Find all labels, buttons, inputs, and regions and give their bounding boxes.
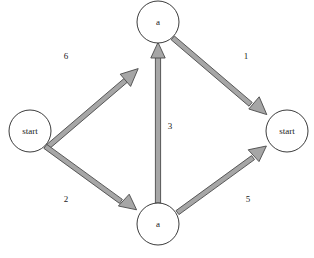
diagram-canvas: start a a start 6 1 2 5 3 xyxy=(0,0,314,258)
node-left-label: start xyxy=(22,126,38,136)
node-bottom[interactable]: a xyxy=(137,203,179,245)
edge-bottom-to-right[interactable] xyxy=(176,146,266,215)
edge-left-to-top[interactable] xyxy=(47,69,139,149)
edge-label-left-to-top: 6 xyxy=(64,51,69,61)
edge-top-to-right[interactable] xyxy=(171,36,267,115)
edge-label-bottom-to-right: 5 xyxy=(246,194,251,204)
edge-shaft-top-to-right xyxy=(171,36,252,106)
directed-graph: start a a start 6 1 2 5 3 xyxy=(0,0,314,258)
node-right-label: start xyxy=(279,126,295,136)
edge-shaft-left-to-top xyxy=(47,78,128,148)
edge-shaft-left-to-bottom xyxy=(44,144,123,203)
edge-head-bottom-to-top xyxy=(151,42,165,58)
node-right[interactable]: start xyxy=(266,110,308,152)
edge-shaft-bottom-to-right xyxy=(176,156,255,215)
node-top-label: a xyxy=(156,17,160,27)
edge-left-to-bottom[interactable] xyxy=(44,144,137,209)
edge-bottom-to-top[interactable] xyxy=(151,42,165,203)
edge-shaft-bottom-to-top xyxy=(155,57,160,203)
node-top[interactable]: a xyxy=(137,1,179,43)
edge-label-bottom-to-top: 3 xyxy=(168,121,173,131)
edge-group xyxy=(44,36,267,215)
edge-head-top-to-right xyxy=(249,97,267,115)
node-bottom-label: a xyxy=(156,219,160,229)
node-left[interactable]: start xyxy=(9,110,51,152)
edge-head-left-to-bottom xyxy=(118,194,136,210)
edge-label-top-to-right: 1 xyxy=(244,51,249,61)
edge-label-left-to-bottom: 2 xyxy=(64,194,69,204)
